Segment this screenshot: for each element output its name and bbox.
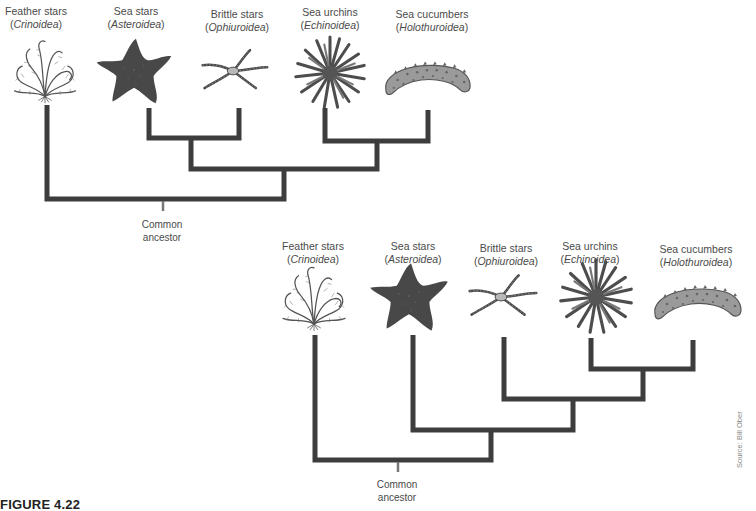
taxon-label: Sea cucumbers (Holothuroidea) — [660, 243, 733, 269]
branch-urchin-cucumber — [325, 108, 428, 141]
scientific-name: Ophiuroidea — [208, 21, 265, 33]
taxon-label: Sea urchins (Echinoidea) — [561, 240, 620, 266]
brittle-star-icon — [470, 275, 537, 314]
feather-star-icon — [283, 267, 345, 331]
taxon-label: Sea stars (Asteroidea) — [107, 5, 164, 31]
branch-sea-brittle — [149, 108, 239, 138]
figure-number: FIGURE 4.22 — [0, 497, 80, 511]
common-name: Sea stars — [384, 240, 441, 253]
common-ancestor-label: Common ancestor — [377, 478, 418, 504]
scientific-name: Asteroidea — [111, 18, 161, 30]
common-name: Sea cucumbers — [396, 8, 469, 21]
scientific-name: Crinoidea — [14, 18, 59, 30]
common-name: Brittle stars — [474, 242, 538, 255]
branch-feather-stars — [47, 105, 284, 199]
sea-star-icon — [97, 39, 171, 104]
top-tree-branches — [47, 105, 428, 199]
branch-feather-stars — [315, 335, 491, 460]
common-name: Sea stars — [107, 5, 164, 18]
common-name: Sea cucumbers — [660, 243, 733, 256]
common-name: Sea urchins — [561, 240, 620, 253]
bottom-tree-branches — [315, 335, 693, 460]
scientific-name: Crinoidea — [291, 253, 336, 265]
common-name: Feather stars — [282, 240, 344, 253]
scientific-name: Holothuroidea — [663, 256, 728, 268]
scientific-name: Echinoidea — [564, 253, 616, 265]
scientific-name: Asteroidea — [388, 253, 438, 265]
taxon-label: Sea cucumbers (Holothuroidea) — [396, 8, 469, 34]
sea-star-icon — [370, 263, 448, 330]
taxon-label: Sea stars (Asteroidea) — [384, 240, 441, 266]
scientific-name: Holothuroidea — [399, 21, 464, 33]
sea-cucumber-icon — [655, 285, 741, 319]
branch-urchin-cucumber — [591, 338, 693, 369]
scientific-name: Ophiuroidea — [477, 255, 534, 267]
common-name: Sea urchins — [301, 6, 360, 19]
feather-star-icon — [15, 41, 76, 103]
taxon-label: Sea urchins (Echinoidea) — [301, 6, 360, 32]
sea-cucumber-icon — [386, 61, 471, 94]
taxon-label: Feather stars (Crinoidea) — [282, 240, 344, 266]
taxon-label: Brittle stars (Ophiuroidea) — [474, 242, 538, 268]
phylogeny-diagram — [0, 0, 756, 511]
scientific-name: Echinoidea — [304, 19, 356, 31]
taxon-label: Brittle stars (Ophiuroidea) — [205, 8, 269, 34]
source-credit: Source: Bill Ober — [735, 411, 744, 468]
brittle-star-icon — [203, 50, 268, 88]
sea-urchin-icon — [296, 37, 364, 107]
branch-sea-stars — [413, 335, 573, 430]
taxon-label: Feather stars (Crinoidea) — [5, 5, 67, 31]
common-name: Brittle stars — [205, 8, 269, 21]
sea-urchin-icon — [561, 260, 632, 333]
figure-caption: FIGURE 4.22 — [0, 497, 80, 511]
common-ancestor-label: Common ancestor — [142, 218, 183, 244]
common-name: Feather stars — [5, 5, 67, 18]
